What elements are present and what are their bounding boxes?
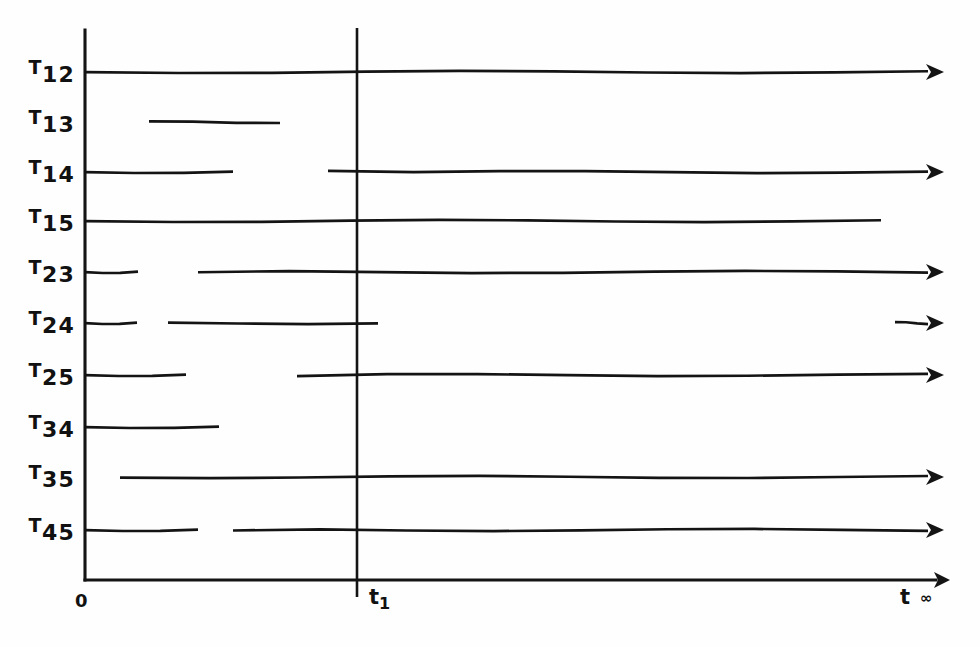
time-axis-label: t∞ xyxy=(900,585,933,609)
interval-segment-t23-1 xyxy=(198,271,928,273)
interval-arrowhead-t14-1 xyxy=(926,164,944,180)
interval-arrowhead-t24-2 xyxy=(926,315,944,331)
time-marker-label-subscript: 1 xyxy=(379,594,391,613)
row-label-base: T xyxy=(29,411,42,433)
row-label-subscript: 12 xyxy=(42,62,75,87)
row-label-subscript: 34 xyxy=(42,417,75,442)
row-label-t34: T34 xyxy=(29,411,75,442)
row-label-base: T xyxy=(29,56,42,78)
row-label-t14: T14 xyxy=(29,156,75,187)
interval-segment-t14-1 xyxy=(328,171,928,173)
time-axis-label-base: t xyxy=(900,585,910,609)
time-marker-label-base: t xyxy=(369,585,379,609)
row-label-t13: T13 xyxy=(29,106,75,137)
interval-segment-t25-1 xyxy=(297,374,928,376)
row-label-base: T xyxy=(29,359,42,381)
row-label-subscript: 25 xyxy=(42,365,75,390)
time-marker-label: t1 xyxy=(369,585,391,613)
interval-arrowhead-t12-0 xyxy=(926,64,944,80)
interval-arrowhead-t25-1 xyxy=(926,367,944,383)
interval-arrowhead-t23-1 xyxy=(926,264,944,280)
row-label-subscript: 15 xyxy=(42,211,75,236)
interval-segment-t12-0 xyxy=(85,71,928,73)
infinity-symbol: ∞ xyxy=(920,589,933,607)
interval-segment-t25-0 xyxy=(85,375,186,376)
interval-segments-group xyxy=(85,64,944,538)
row-label-base: T xyxy=(29,461,42,483)
row-label-t35: T35 xyxy=(29,461,75,492)
row-label-subscript: 13 xyxy=(42,112,75,137)
interval-segment-t13-0 xyxy=(149,121,280,123)
row-label-subscript: 24 xyxy=(42,313,75,338)
origin-label: 0 xyxy=(75,590,88,611)
timing-diagram-canvas xyxy=(0,0,980,647)
interval-segment-t45-1 xyxy=(233,529,928,531)
row-label-base: T xyxy=(29,307,42,329)
interval-arrowhead-t45-1 xyxy=(926,522,944,538)
row-label-subscript: 23 xyxy=(42,262,75,287)
row-label-t45: T45 xyxy=(29,514,75,545)
row-label-t23: T23 xyxy=(29,256,75,287)
interval-segment-t24-1 xyxy=(168,323,378,324)
interval-segment-t35-0 xyxy=(120,476,928,478)
axes-group xyxy=(85,30,950,588)
row-label-t24: T24 xyxy=(29,307,75,338)
row-label-base: T xyxy=(29,205,42,227)
row-label-base: T xyxy=(29,106,42,128)
row-label-base: T xyxy=(29,156,42,178)
interval-segment-t15-0 xyxy=(85,220,881,222)
interval-arrowhead-t35-0 xyxy=(926,469,944,485)
row-label-subscript: 35 xyxy=(42,467,75,492)
row-label-subscript: 45 xyxy=(42,520,75,545)
row-label-t12: T12 xyxy=(29,56,75,87)
row-label-t25: T25 xyxy=(29,359,75,390)
row-label-t15: T15 xyxy=(29,205,75,236)
row-label-subscript: 14 xyxy=(42,162,75,187)
interval-segment-t14-0 xyxy=(85,172,233,173)
timing-diagram-figure: T12T13T14T15T23T24T25T34T35T45 0 t1 t∞ xyxy=(0,0,980,647)
interval-segment-t24-2 xyxy=(895,322,928,324)
interval-segment-t34-0 xyxy=(85,427,219,428)
row-label-base: T xyxy=(29,256,42,278)
interval-segment-t24-0 xyxy=(85,323,137,324)
interval-segment-t23-0 xyxy=(85,272,138,273)
row-label-base: T xyxy=(29,514,42,536)
interval-segment-t45-0 xyxy=(85,530,198,531)
